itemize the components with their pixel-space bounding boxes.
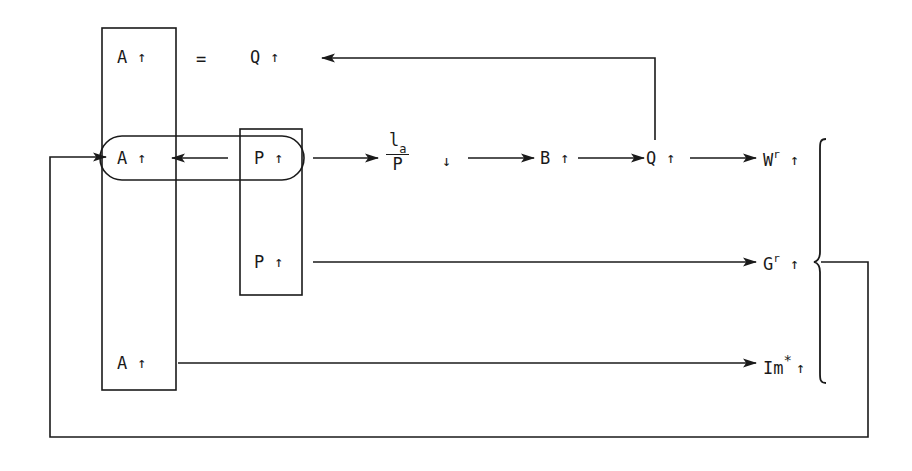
equals-sign: = [196,49,206,69]
fraction-direction-arrow: ↓ [442,152,451,170]
output-im-star: Im*↑ [763,355,805,377]
node-b-middle-symbol: B [540,150,550,167]
node-a-top-arrow: ↑ [137,50,146,65]
node-a-bottom: A↑ [117,355,146,372]
output-im-star-base: Im [763,360,783,377]
node-q-top-symbol: Q [250,49,260,66]
output-g-r: Gr↑ [763,254,799,273]
output-g-r-base: G [763,256,773,273]
node-q-middle: Q↑ [646,150,675,167]
node-a-middle-arrow: ↑ [137,151,146,166]
a-column-box [102,28,176,390]
arrow-q-feedback-to-top [322,58,655,140]
node-q-middle-arrow: ↑ [666,151,675,166]
output-im-star-arrow: ↑ [796,361,805,376]
node-p-lower-arrow: ↑ [274,255,283,270]
output-g-r-arrow: ↑ [790,257,799,272]
fraction-numerator: la [386,132,409,155]
output-w-r-arrow: ↑ [790,153,799,168]
node-a-top: A↑ [117,49,146,66]
node-a-middle-symbol: A [117,150,127,167]
output-w-r-superscript: r [773,148,780,161]
fraction-denominator: P [386,155,409,174]
node-q-top-arrow: ↑ [270,50,279,65]
diagram-canvas: A↑ = Q↑ A↑ P↑ la P ↓ B↑ Q↑ Wr↑ P↑ Gr↑ A↑… [0,0,912,471]
node-p-middle-symbol: P [254,150,264,167]
node-p-lower-symbol: P [254,254,264,271]
node-q-middle-symbol: Q [646,150,656,167]
node-a-bottom-arrow: ↑ [137,356,146,371]
output-group-brace [814,139,826,383]
node-q-top: Q↑ [250,49,279,66]
fraction-la-over-p: la P [386,132,409,174]
output-g-r-superscript: r [773,252,780,265]
output-w-r: Wr↑ [763,150,799,169]
fraction-numerator-subscript: a [399,142,406,156]
node-p-middle-arrow: ↑ [274,151,283,166]
node-a-top-symbol: A [117,49,127,66]
diagram-vector-layer [0,0,912,471]
node-b-middle-arrow: ↑ [560,151,569,166]
global-feedback-loop [50,157,868,437]
node-b-middle: B↑ [540,150,569,167]
output-w-r-base: W [763,152,773,169]
node-p-middle: P↑ [254,150,283,167]
node-p-lower: P↑ [254,254,283,271]
fraction-numerator-base: l [389,130,399,150]
node-a-bottom-symbol: A [117,355,127,372]
node-a-middle: A↑ [117,150,146,167]
output-im-star-superscript: * [783,352,791,368]
